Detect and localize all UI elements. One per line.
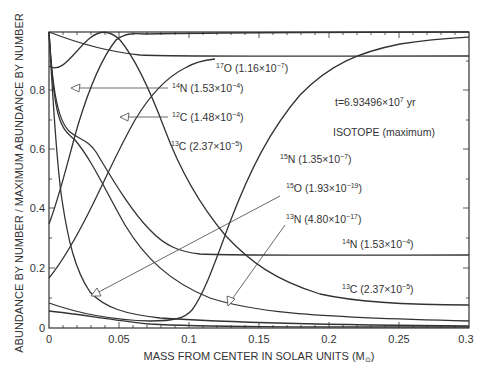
- x-tick-label: 0.2: [321, 333, 336, 345]
- label-n15: 15N (1.35×10−7): [280, 153, 352, 165]
- x-axis-title: MASS FROM CENTER IN SOLAR UNITS (M⊙): [144, 350, 375, 363]
- time-annotation: t=6.93496×107 yr: [335, 96, 416, 108]
- y-axis-title: ABUNDANCE BY NUMBER / MAXIMUM ABUNDANCE …: [13, 13, 25, 352]
- leader-n13: [230, 225, 285, 302]
- label-n13: 13N (4.80×10−17): [286, 213, 361, 225]
- label-o17: 17O (1.16×10−7): [216, 62, 288, 74]
- label-c12: 12C (1.48×10−4): [172, 111, 244, 123]
- label-c13-upper: 13C (2.37×10−5): [171, 140, 243, 152]
- curve-c13-falling: [49, 32, 469, 321]
- arrow-n14-icon: [71, 84, 80, 92]
- y-tick-label: 0.4: [30, 202, 45, 214]
- x-tick-label: 0.25: [388, 333, 409, 345]
- label-c13-lower: 13C (2.37×10−5): [342, 283, 414, 295]
- isotope-abundance-chart: 0 0.05 0.1 0.15 0.2 0.25 0.3 0 0.2 0.4 0…: [0, 0, 477, 369]
- label-o15: 15O (1.93×10−19): [286, 182, 362, 194]
- y-tick-label: 0.2: [30, 262, 45, 274]
- x-tick-label: 0.1: [181, 333, 196, 345]
- x-tick-labels: 0 0.05 0.1 0.15 0.2 0.25 0.3: [46, 333, 474, 345]
- leader-o15: [95, 196, 280, 294]
- x-tick-label: 0: [46, 333, 52, 345]
- x-tick-label: 0.15: [248, 333, 269, 345]
- label-n14-lower: 14N (1.53×10−4): [342, 238, 414, 250]
- y-tick-label: 0.8: [30, 84, 45, 96]
- y-tick-labels: 0 0.2 0.4 0.6 0.8: [30, 84, 45, 334]
- y-tick-label: 0.6: [30, 143, 45, 155]
- label-n14-upper: 14N (1.53×10−4): [172, 82, 244, 94]
- y-tick-label: 0: [39, 322, 45, 334]
- x-tick-label: 0.3: [458, 333, 473, 345]
- x-tick-label: 0.05: [108, 333, 129, 345]
- arrow-c12-icon: [120, 113, 129, 121]
- isotope-heading: ISOTOPE (maximum): [333, 126, 435, 138]
